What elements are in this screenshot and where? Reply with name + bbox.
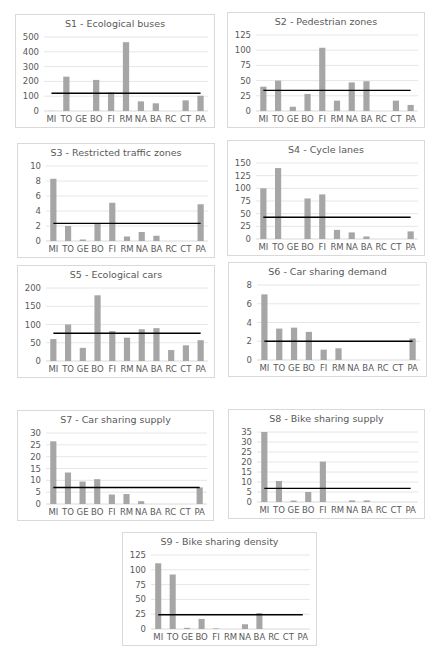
x-tick-label: CT xyxy=(180,364,192,374)
x-tick-label: BO xyxy=(301,114,314,124)
y-tick-label: 25 xyxy=(240,91,251,101)
y-tick-label: 0 xyxy=(36,236,41,246)
x-tick-label: NA xyxy=(346,505,358,515)
bar-pa xyxy=(198,204,204,241)
bar-fi xyxy=(321,350,327,360)
x-tick-label: TO xyxy=(272,363,285,373)
bar-bo xyxy=(93,80,99,111)
x-tick-label: MI xyxy=(48,244,58,254)
bar-rm xyxy=(334,230,340,239)
bar-ba xyxy=(364,500,370,502)
x-tick-label: PA xyxy=(195,244,206,254)
x-tick-label: FI xyxy=(319,114,326,124)
x-tick-label: BA xyxy=(151,364,163,374)
x-tick-label: CT xyxy=(390,114,402,124)
x-tick-label: MI xyxy=(259,505,269,515)
y-tick-label: 100 xyxy=(235,45,251,55)
y-tick-label: 50 xyxy=(30,338,41,348)
x-tick-label: MI xyxy=(48,507,58,517)
x-tick-label: GE xyxy=(288,363,300,373)
y-tick-label: 30 xyxy=(30,428,41,438)
x-tick-label: TO xyxy=(271,114,284,124)
x-tick-label: GE xyxy=(75,114,87,124)
x-tick-label: TO xyxy=(61,364,74,374)
bar-to xyxy=(275,81,281,111)
x-tick-label: RM xyxy=(120,364,133,374)
x-tick-label: RC xyxy=(165,507,176,517)
x-tick-label: NA xyxy=(346,114,358,124)
x-tick-label: BO xyxy=(91,244,104,254)
y-tick-label: 0 xyxy=(36,499,41,509)
bar-rc xyxy=(168,350,174,361)
y-tick-label: 75 xyxy=(240,196,251,206)
bar-ge xyxy=(80,240,86,242)
chart-s4-cycle-lanes: S4 - Cycle lanes0255075100125150MITOGEBO… xyxy=(227,140,425,256)
x-tick-label: PA xyxy=(298,632,309,642)
y-tick-label: 30 xyxy=(241,437,252,447)
bar-na xyxy=(138,101,144,111)
bar-pa xyxy=(408,105,414,111)
y-tick-label: 25 xyxy=(240,221,251,231)
x-tick-label: MI xyxy=(258,242,268,252)
y-tick-label: 200 xyxy=(23,76,39,86)
x-tick-label: TO xyxy=(272,505,285,515)
chart-s9-bike-sharing-density: S9 - Bike sharing density0255075100125MI… xyxy=(122,532,317,646)
bar-rm xyxy=(334,101,340,111)
y-tick-label: 0 xyxy=(34,106,39,116)
x-tick-label: GE xyxy=(288,505,300,515)
x-tick-label: PA xyxy=(407,363,418,373)
bar-bo xyxy=(199,619,205,629)
y-tick-label: 25 xyxy=(135,609,146,619)
bar-rm xyxy=(124,237,130,242)
bar-na xyxy=(139,329,145,361)
x-tick-label: RC xyxy=(165,244,176,254)
x-tick-label: NA xyxy=(136,244,148,254)
x-tick-label: FI xyxy=(107,114,114,124)
y-tick-label: 4 xyxy=(247,318,252,328)
bar-to xyxy=(276,481,282,502)
y-tick-label: 50 xyxy=(240,209,251,219)
chart-title: S9 - Bike sharing density xyxy=(161,536,279,547)
bar-na xyxy=(242,624,248,629)
bar-rm xyxy=(124,338,130,361)
x-tick-label: CT xyxy=(283,632,295,642)
x-tick-label: BA xyxy=(254,632,266,642)
x-tick-label: NA xyxy=(135,507,147,517)
bar-rm xyxy=(123,42,129,111)
bar-to xyxy=(170,575,176,629)
bar-fi xyxy=(109,203,115,241)
bar-ba xyxy=(153,103,159,111)
bar-fi xyxy=(213,628,219,629)
y-tick-label: 0 xyxy=(246,234,251,244)
bar-pa xyxy=(197,96,203,111)
y-tick-label: 0 xyxy=(247,497,252,507)
x-tick-label: MI xyxy=(259,363,269,373)
y-tick-label: 10 xyxy=(30,475,41,485)
x-tick-label: PA xyxy=(195,114,206,124)
x-tick-label: MI xyxy=(48,364,58,374)
y-tick-label: 2 xyxy=(247,336,252,346)
x-tick-label: RM xyxy=(120,244,133,254)
x-tick-label: RC xyxy=(165,364,176,374)
bar-to xyxy=(276,329,282,360)
bar-ge xyxy=(80,348,86,361)
bar-pa xyxy=(198,340,204,361)
bar-ba xyxy=(363,81,369,111)
y-tick-label: 100 xyxy=(130,565,146,575)
y-tick-label: 6 xyxy=(36,191,41,201)
bar-rm xyxy=(123,494,129,504)
bar-mi xyxy=(261,294,267,360)
x-tick-label: GE xyxy=(287,114,299,124)
x-tick-label: RM xyxy=(332,363,345,373)
y-tick-label: 75 xyxy=(135,580,146,590)
bar-rm xyxy=(335,348,341,360)
y-tick-label: 50 xyxy=(240,76,251,86)
bar-bo xyxy=(306,332,312,360)
x-tick-label: TO xyxy=(166,632,179,642)
chart-title: S2 - Pedestrian zones xyxy=(275,16,377,27)
y-tick-label: 300 xyxy=(23,62,39,72)
y-tick-label: 100 xyxy=(25,320,41,330)
chart-s2-pedestrian-zones: S2 - Pedestrian zones0255075100125MITOGE… xyxy=(227,12,425,128)
x-tick-label: RC xyxy=(376,505,387,515)
y-tick-label: 0 xyxy=(141,624,146,634)
